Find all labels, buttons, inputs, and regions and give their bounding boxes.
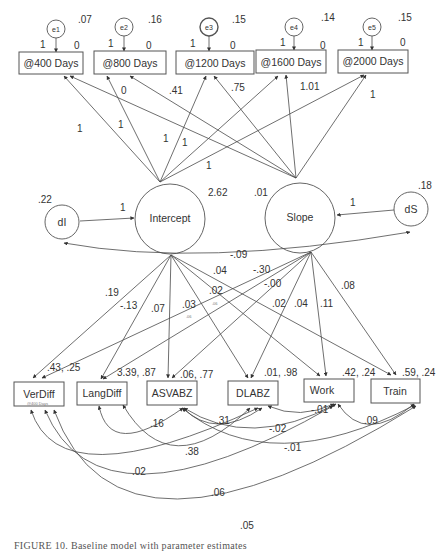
- error-label: e1: [52, 26, 60, 33]
- figure-caption: FIGURE 10. Baseline model with parameter…: [14, 540, 247, 551]
- node-label: ASVABZ: [152, 387, 193, 399]
- disturbance-dS[interactable]: dS: [394, 192, 428, 226]
- node-label: @400 Days: [23, 57, 78, 69]
- node-work[interactable]: Work: [304, 379, 354, 402]
- error-variance-e3: .15: [232, 14, 246, 25]
- loading-paths: [64, 75, 366, 182]
- node-dlabz[interactable]: DLABZ: [228, 381, 278, 405]
- stats-train: .59, .24: [402, 367, 436, 378]
- dS-variance: .18: [418, 180, 432, 191]
- node-asvabz[interactable]: ASVABZ: [147, 381, 197, 405]
- covariance-labels: .16 .31 .38 -.01 -.02 .09 -.01 .02 .06 .…: [132, 404, 378, 531]
- loading-intercept-d400: 1: [77, 123, 83, 134]
- node-label: @1200 Days: [185, 57, 246, 69]
- mean-d1200: 0: [230, 40, 236, 51]
- error-label: e2: [120, 24, 128, 31]
- reg-slope-dlabz: .04: [294, 298, 308, 309]
- loading-slope-d1200: .41: [169, 85, 183, 96]
- mean-d1600: 0: [320, 40, 326, 51]
- node-label: Train: [383, 385, 407, 397]
- error-e3: e3: [200, 18, 218, 51]
- node-d2000[interactable]: @2000 Days: [338, 50, 408, 73]
- error-loading-e2: 1: [108, 38, 114, 49]
- node-label: Work: [310, 384, 335, 396]
- error-label: e5: [368, 24, 376, 31]
- error-terms: e1 e2 e3 e4 e5: [47, 18, 381, 52]
- cov-asvabz-work: -.02: [269, 423, 287, 434]
- error-loading-e3: 1: [190, 38, 196, 49]
- observed-bottom: VerDiff @400 Days LangDiff ASVABZ DLABZ …: [14, 379, 420, 406]
- mean-d800: 0: [146, 40, 152, 51]
- disturbance-covariance: -.09: [230, 249, 248, 260]
- latent-intercept[interactable]: Intercept: [135, 184, 205, 254]
- node-label: @2000 Days: [343, 55, 404, 67]
- error-loading-e4: 1: [280, 37, 286, 48]
- cov-langdiff-dlabz: .38: [185, 446, 199, 457]
- sem-path-diagram: e1 e2 e3 e4 e5 .07 1 0 .16 1 0: [0, 0, 445, 556]
- slope-estimate: .01: [254, 187, 268, 198]
- cov-verdiff-dlabz: .02: [132, 466, 146, 477]
- reg-intercept-verdiff: .19: [105, 287, 119, 298]
- stats-asvabz: .06, .77: [180, 369, 214, 380]
- reg-slope-verdiff: -.30: [253, 264, 271, 275]
- error-e5: e5: [363, 18, 381, 50]
- node-langdiff[interactable]: LangDiff: [77, 382, 127, 405]
- reg-intercept-langdiff: -.13: [120, 300, 138, 311]
- loading-intercept-d1200: 1: [163, 133, 169, 144]
- node-label: VerDiff: [23, 388, 54, 400]
- node-label: LangDiff: [83, 387, 122, 399]
- node-label: Intercept: [150, 212, 191, 224]
- error-loading-e5: 1: [358, 37, 364, 48]
- loading-slope-d2000-fixed: 1: [370, 89, 376, 100]
- loading-intercept-d2000: 1: [206, 160, 212, 171]
- dI-loading: 1: [120, 202, 126, 213]
- node-d400[interactable]: @400 Days: [19, 52, 83, 74]
- error-label: e3: [205, 24, 213, 31]
- mean-d400: 0: [74, 40, 80, 51]
- node-d1600[interactable]: @1600 Days: [256, 50, 326, 73]
- cov-work-train: .09: [364, 415, 378, 426]
- node-label: DLABZ: [236, 387, 270, 399]
- cov-dlabz-work: -.01: [311, 404, 329, 415]
- loading-intercept-d1600: 1: [182, 137, 188, 148]
- node-d800[interactable]: @800 Days: [94, 51, 166, 74]
- loading-slope-d2000: 1.01: [300, 81, 320, 92]
- small-annotation: .06: [186, 314, 192, 319]
- cov-verdiff-work: .06: [211, 487, 225, 498]
- error-e2: e2: [115, 18, 133, 51]
- loading-intercept-d800: 1: [118, 119, 124, 130]
- cov-asvabz-dlabz: .31: [216, 415, 230, 426]
- error-variance-e4: .14: [321, 12, 335, 23]
- error-annotations: .07 1 0 .16 1 0 .15 1 0 .14 1 0 .15 1 0: [40, 12, 412, 51]
- loading-slope-d1600: .75: [231, 82, 245, 93]
- stats-work: .42, .24: [342, 367, 376, 378]
- node-label: dI: [58, 216, 67, 228]
- cov-langdiff-asvabz: .16: [150, 418, 164, 429]
- reg-slope-langdiff: -.00: [264, 278, 282, 289]
- reg-intercept-work: .02: [209, 285, 223, 296]
- reg-slope-work: .11: [320, 298, 334, 309]
- disturbance-dI[interactable]: dI: [45, 205, 79, 239]
- latent-slope[interactable]: Slope: [265, 183, 335, 253]
- small-annotation: .06: [212, 301, 218, 306]
- cov-asvabz-train: -.01: [284, 442, 302, 453]
- intercept-estimate: 2.62: [208, 187, 228, 198]
- dI-variance: .22: [38, 194, 52, 205]
- reg-intercept-train: .04: [213, 265, 227, 276]
- stats-langdiff: 3.39, .87: [117, 367, 156, 378]
- dS-loading: 1: [350, 197, 356, 208]
- reg-slope-asvabz: .02: [272, 298, 286, 309]
- reg-slope-train: .08: [341, 280, 355, 291]
- node-verdiff[interactable]: VerDiff @400 Days: [14, 382, 64, 406]
- error-variance-e2: .16: [148, 14, 162, 25]
- node-label: @800 Days: [102, 57, 157, 69]
- error-loading-e1: 1: [40, 39, 46, 50]
- node-label: Slope: [287, 211, 314, 223]
- error-variance-e1: .07: [78, 14, 92, 25]
- node-d1200[interactable]: @1200 Days: [176, 51, 254, 74]
- observed-top: @400 Days @800 Days @1200 Days @1600 Day…: [19, 50, 408, 74]
- reg-intercept-dlabz: .03: [182, 299, 196, 310]
- stats-dlabz: .01, .98: [264, 367, 298, 378]
- node-train[interactable]: Train: [371, 379, 420, 403]
- node-label: @1600 Days: [261, 56, 322, 68]
